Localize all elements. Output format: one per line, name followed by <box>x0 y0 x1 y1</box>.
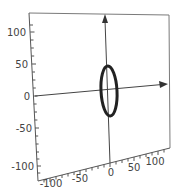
frame-right-edge <box>169 15 170 148</box>
horizontal-axis-line <box>35 85 162 97</box>
depth-tick-label: -50 <box>72 173 88 184</box>
vertical-tick-label: -100 <box>11 161 34 172</box>
depth-tick-label: 50 <box>128 162 141 173</box>
frame-top-edge <box>29 13 169 15</box>
vertical-tick-label: 100 <box>7 27 26 38</box>
depth-tick-label: 0 <box>108 167 114 178</box>
ellipse-curve <box>100 66 119 117</box>
vertical-tick-label: -50 <box>16 123 32 134</box>
depth-tick-label: 100 <box>145 156 164 167</box>
frame-left-axis <box>29 13 38 181</box>
chart-canvas: 100 50 0 -50 -100 -100 -50 0 50 100 <box>0 0 180 195</box>
depth-tick-label: -100 <box>40 178 63 189</box>
vertical-axis-ticks <box>30 25 41 173</box>
vertical-tick-label: 50 <box>15 59 28 70</box>
vertical-tick-label: 0 <box>24 91 30 102</box>
vertical-axis-line <box>105 20 110 163</box>
vertical-axis-arrow-icon <box>102 14 108 23</box>
horizontal-axis-arrow-icon <box>159 81 168 88</box>
